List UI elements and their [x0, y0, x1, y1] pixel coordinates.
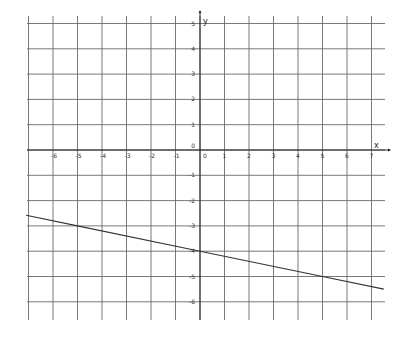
x-tick-label: -6 [51, 152, 57, 159]
x-tick-label: -1 [174, 152, 180, 159]
grid-lines [27, 16, 385, 320]
y-tick-label: -4 [189, 247, 195, 254]
y-axis-label: y [203, 17, 208, 26]
y-axis-arrow-icon [199, 10, 202, 13]
axes [27, 10, 391, 320]
x-tick-label: -5 [76, 152, 82, 159]
y-tick-label: -1 [189, 171, 195, 178]
y-tick-label: -3 [189, 222, 195, 229]
y-tick-label: 2 [191, 95, 195, 102]
x-tick-label: 2 [247, 152, 251, 159]
x-tick-label: -2 [149, 152, 155, 159]
x-axis-arrow-icon [388, 149, 391, 152]
y-tick-label: 1 [191, 121, 195, 128]
plotted-line [26, 215, 384, 289]
x-axis-label: x [374, 141, 379, 150]
x-tick-label: 3 [272, 152, 276, 159]
y-tick-label: 5 [191, 20, 195, 27]
x-tick-label: -4 [100, 152, 106, 159]
origin-label: 0 [191, 142, 195, 149]
coordinate-plane: -6-5-4-3-2-101234567-6-5-4-3-2-1123450 x… [0, 0, 404, 338]
y-tick-label: -2 [189, 197, 195, 204]
x-tick-label: 0 [203, 152, 207, 159]
tick-labels: -6-5-4-3-2-101234567-6-5-4-3-2-1123450 [51, 20, 374, 305]
y-tick-label: 4 [191, 45, 195, 52]
x-tick-label: 5 [321, 152, 325, 159]
x-tick-label: 1 [223, 152, 227, 159]
series-line [26, 215, 384, 289]
y-tick-label: 3 [191, 70, 195, 77]
x-tick-label: 7 [370, 152, 374, 159]
x-tick-label: 6 [345, 152, 349, 159]
x-tick-label: 4 [296, 152, 300, 159]
x-tick-label: -3 [125, 152, 131, 159]
y-tick-label: -6 [189, 298, 195, 305]
y-tick-label: -5 [189, 273, 195, 280]
